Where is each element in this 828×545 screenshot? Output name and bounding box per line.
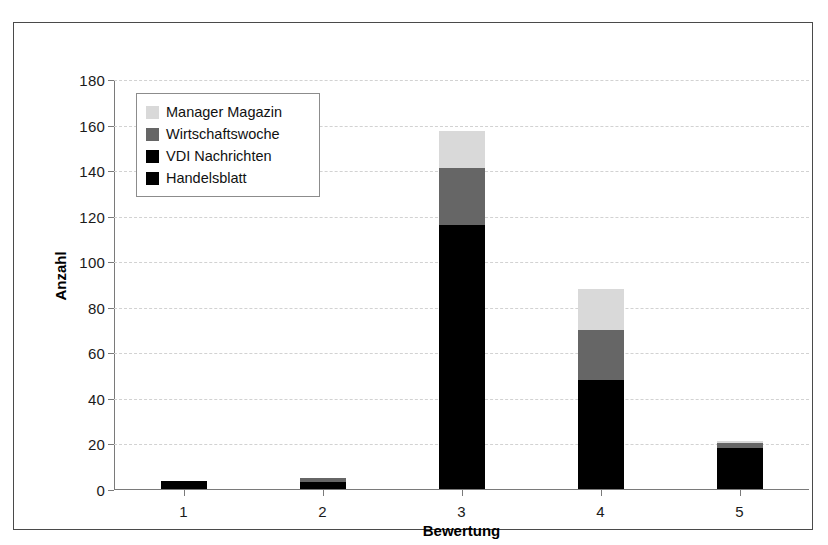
y-axis-tick-label: 80 — [45, 299, 105, 316]
bar-stack[interactable] — [717, 441, 763, 489]
y-axis-tick — [108, 490, 114, 491]
chart-frame: Anzahl Bewertung 02040608010012014016018… — [13, 22, 813, 530]
bar-segment[interactable] — [717, 441, 763, 443]
legend-item[interactable]: Wirtschaftswoche — [146, 123, 311, 145]
y-axis-tick-label: 120 — [45, 208, 105, 225]
x-axis-tick-label: 3 — [457, 503, 465, 520]
y-axis-tick — [108, 399, 114, 400]
y-axis-line — [114, 80, 115, 490]
y-axis-tick — [108, 444, 114, 445]
bar-segment[interactable] — [717, 448, 763, 489]
bar-stack[interactable] — [439, 131, 485, 489]
legend-item-label: Manager Magazin — [166, 104, 282, 120]
bar-segment[interactable] — [578, 380, 624, 489]
y-axis-tick — [108, 217, 114, 218]
y-axis-tick-label: 180 — [45, 72, 105, 89]
legend-swatch-icon — [146, 106, 159, 119]
y-axis-tick-label: 160 — [45, 117, 105, 134]
bar-segment[interactable] — [439, 225, 485, 489]
y-axis-tick — [108, 80, 114, 81]
x-axis-tick — [601, 490, 602, 496]
chart-legend: Manager MagazinWirtschaftswocheVDI Nachr… — [136, 93, 320, 197]
y-axis-tick-label: 100 — [45, 254, 105, 271]
y-axis-tick-label: 20 — [45, 436, 105, 453]
x-axis-tick-label: 5 — [735, 503, 743, 520]
x-axis-tick-label: 4 — [596, 503, 604, 520]
bar-stack[interactable] — [300, 478, 346, 489]
bar-segment[interactable] — [439, 168, 485, 225]
bar-stack[interactable] — [578, 289, 624, 489]
legend-swatch-icon — [146, 128, 159, 141]
y-axis-tick-label: 140 — [45, 163, 105, 180]
y-axis-tick-label: 60 — [45, 345, 105, 362]
x-axis-tick-label: 1 — [179, 503, 187, 520]
y-axis-tick — [108, 308, 114, 309]
bar-segment[interactable] — [717, 443, 763, 448]
y-axis-tick — [108, 126, 114, 127]
legend-swatch-icon — [146, 172, 159, 185]
y-axis-tick — [108, 353, 114, 354]
legend-item[interactable]: Handelsblatt — [146, 167, 311, 189]
legend-item[interactable]: Manager Magazin — [146, 101, 311, 123]
y-axis-tick-label: 40 — [45, 390, 105, 407]
gridline — [114, 80, 809, 81]
bar-segment[interactable] — [161, 481, 207, 489]
x-axis-tick — [462, 490, 463, 496]
bar-segment[interactable] — [300, 482, 346, 489]
legend-item[interactable]: VDI Nachrichten — [146, 145, 311, 167]
x-axis-title: Bewertung — [114, 522, 809, 539]
legend-item-label: Wirtschaftswoche — [166, 126, 280, 142]
bar-stack[interactable] — [161, 481, 207, 489]
bar-segment[interactable] — [578, 330, 624, 380]
legend-item-label: Handelsblatt — [166, 170, 247, 186]
y-axis-tick — [108, 262, 114, 263]
bar-segment[interactable] — [439, 131, 485, 167]
x-axis-tick — [184, 490, 185, 496]
legend-item-label: VDI Nachrichten — [166, 148, 272, 164]
bar-segment[interactable] — [300, 478, 346, 483]
legend-swatch-icon — [146, 150, 159, 163]
y-axis-tick-label: 0 — [45, 482, 105, 499]
x-axis-tick-label: 2 — [318, 503, 326, 520]
x-axis-tick — [740, 490, 741, 496]
bar-segment[interactable] — [578, 289, 624, 330]
y-axis-tick — [108, 171, 114, 172]
x-axis-tick — [323, 490, 324, 496]
